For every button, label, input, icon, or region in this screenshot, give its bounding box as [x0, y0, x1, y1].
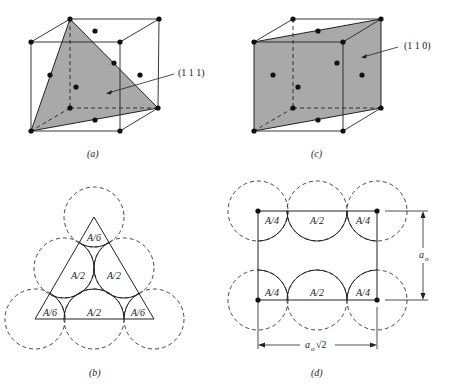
panel-b: [5, 187, 184, 349]
caption-a: (a): [87, 148, 99, 160]
label-d-bottom-mid: A/2: [309, 287, 324, 298]
label-b-mid-left: A/2: [70, 270, 85, 281]
plane-label-110: (1 1 0): [404, 40, 431, 52]
dim-horizontal-sub: o: [311, 345, 315, 353]
dim-vertical-a: a: [419, 249, 424, 260]
panel-a: [28, 16, 174, 133]
label-b-mid-right: A/2: [106, 270, 121, 281]
caption-c: (c): [311, 148, 323, 160]
label-d-bottom-left: A/4: [264, 287, 279, 298]
label-d-top-right: A/4: [355, 215, 370, 226]
label-d-top-left: A/4: [264, 215, 279, 226]
label-d-bottom-right: A/4: [355, 287, 370, 298]
dim-vertical-sub: o: [425, 255, 429, 263]
label-b-top: A/6: [86, 232, 101, 243]
label-b-bottom-left: A/6: [42, 307, 57, 318]
dimension-arrows: [258, 211, 426, 348]
dashed-atom-circles-d: [228, 181, 407, 330]
label-b-bottom-right: A/6: [130, 307, 145, 318]
caption-d: (d): [311, 367, 323, 379]
figure-canvas: (1 1 1) (a) (1 1 0) (c): [0, 0, 449, 390]
label-d-top-mid: A/2: [309, 215, 324, 226]
plane-label-111: (1 1 1): [178, 67, 205, 79]
caption-b: (b): [89, 367, 101, 379]
panel-d: [228, 181, 428, 349]
label-b-bottom-mid: A/2: [86, 307, 101, 318]
panel-c: [251, 16, 398, 133]
dim-horizontal-a: a: [305, 339, 310, 350]
dim-horizontal-root: √2: [316, 339, 327, 350]
